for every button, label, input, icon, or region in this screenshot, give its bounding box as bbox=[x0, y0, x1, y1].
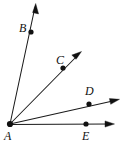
geometry-diagram: A B C D E bbox=[0, 0, 122, 153]
ray-ad-line bbox=[10, 101, 115, 125]
ray-ae-line bbox=[10, 124, 110, 125]
ray-ad-arrowhead bbox=[109, 99, 119, 105]
point-b-dot bbox=[28, 29, 33, 34]
label-a: A bbox=[4, 130, 11, 142]
label-c: C bbox=[56, 54, 64, 66]
label-e: E bbox=[82, 130, 89, 142]
ray-ac-line bbox=[10, 55, 78, 124]
point-d-dot bbox=[86, 101, 91, 106]
ray-ab-arrowhead bbox=[33, 4, 39, 14]
label-d: D bbox=[85, 85, 94, 97]
ray-ae bbox=[10, 121, 115, 127]
label-b: B bbox=[19, 22, 26, 34]
ray-ad bbox=[10, 99, 120, 124]
ray-ac bbox=[10, 52, 82, 125]
point-e-dot bbox=[83, 121, 88, 126]
ray-ac-arrowhead bbox=[72, 52, 82, 60]
vertex-a-dot bbox=[7, 121, 13, 127]
ray-ae-arrowhead bbox=[105, 121, 115, 127]
